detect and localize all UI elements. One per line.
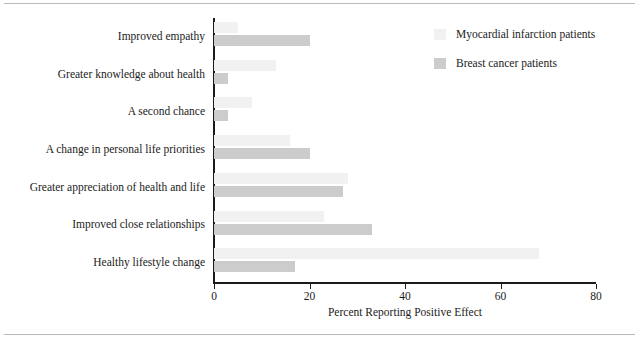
bar <box>214 211 324 222</box>
x-axis-title: Percent Reporting Positive Effect <box>214 306 596 319</box>
x-tick-mark <box>214 284 215 289</box>
bar-group <box>214 169 596 207</box>
legend-item-label: Myocardial infarction patients <box>456 27 595 41</box>
category-label: Healthy lifestyle change <box>0 256 205 269</box>
category-label: A second chance <box>0 105 205 118</box>
bar-group <box>214 244 596 282</box>
x-tick-label: 60 <box>486 290 516 303</box>
x-tick-mark <box>310 284 311 289</box>
bar <box>214 22 238 33</box>
bar <box>214 248 539 259</box>
legend-item-label: Breast cancer patients <box>456 56 557 70</box>
x-tick-label: 40 <box>390 290 420 303</box>
bar <box>214 261 295 272</box>
bar <box>214 173 348 184</box>
legend-swatch-icon <box>434 58 446 69</box>
figure-top-rule <box>4 3 635 4</box>
category-label: Improved close relationships <box>0 218 205 231</box>
x-tick-mark <box>596 284 597 289</box>
figure-bottom-rule <box>4 334 635 335</box>
bar <box>214 135 290 146</box>
x-tick-label: 0 <box>199 290 229 303</box>
bar-group <box>214 131 596 169</box>
bar <box>214 73 228 84</box>
bar <box>214 186 343 197</box>
x-tick-label: 80 <box>581 290 611 303</box>
bar <box>214 110 228 121</box>
bar-group <box>214 207 596 245</box>
bar-group <box>214 93 596 131</box>
category-label: A change in personal life priorities <box>0 143 205 156</box>
x-tick-mark <box>501 284 502 289</box>
bar <box>214 35 310 46</box>
bar <box>214 60 276 71</box>
category-label: Greater appreciation of health and life <box>0 181 205 194</box>
bar <box>214 97 252 108</box>
x-tick-label: 20 <box>295 290 325 303</box>
legend-swatch-icon <box>434 29 446 40</box>
category-label: Improved empathy <box>0 30 205 43</box>
category-label: Greater knowledge about health <box>0 68 205 81</box>
chart-legend: Myocardial infarction patients Breast ca… <box>434 27 639 85</box>
chart-figure: 020406080 Improved empathyGreater knowle… <box>0 0 639 338</box>
x-tick-mark <box>405 284 406 289</box>
legend-item-breast-cancer-patients: Breast cancer patients <box>434 56 639 85</box>
bar <box>214 224 372 235</box>
legend-item-myocardial-infarction-patients: Myocardial infarction patients <box>434 27 639 56</box>
bar <box>214 148 310 159</box>
